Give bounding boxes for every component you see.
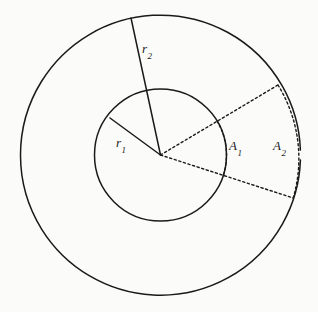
label-r2-base: r — [142, 41, 147, 56]
annulus-diagram-svg — [0, 0, 318, 312]
inner-arc-a1 — [217, 121, 226, 175]
label-a1-subscript: 1 — [237, 148, 242, 158]
diagram-canvas: r2 r1 A1 A2 — [0, 0, 318, 312]
label-r1-base: r — [116, 135, 121, 150]
label-a1-base: A — [229, 138, 237, 153]
label-r2-subscript: 2 — [148, 51, 153, 61]
label-a1: A1 — [229, 139, 241, 156]
sector-ray-upper — [161, 85, 279, 155]
label-a2: A2 — [273, 139, 285, 156]
label-r1-subscript: 1 — [122, 145, 127, 155]
label-r1: r1 — [116, 136, 126, 153]
label-r2: r2 — [142, 42, 152, 59]
label-a2-subscript: 2 — [281, 148, 286, 158]
label-a2-base: A — [273, 138, 281, 153]
r2-radius-line — [131, 18, 161, 155]
